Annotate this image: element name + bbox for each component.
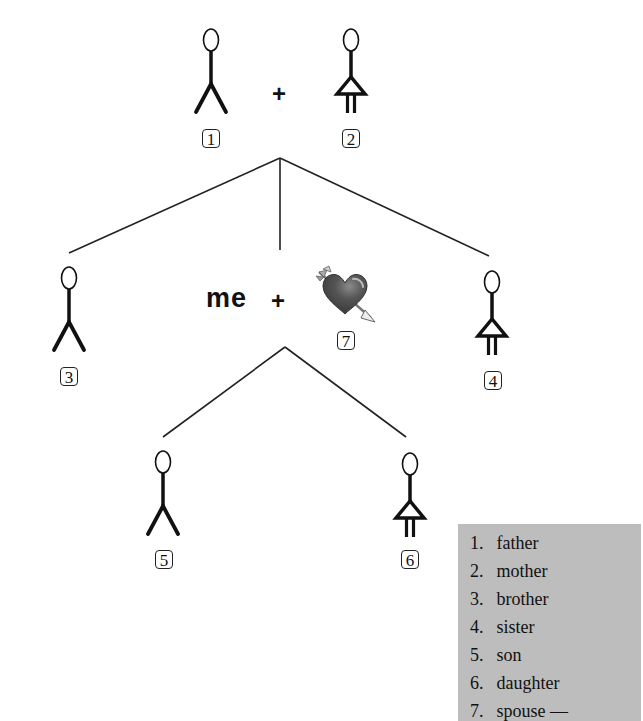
line-couple-to-son — [163, 347, 285, 437]
legend-item: 3. brother — [470, 585, 641, 613]
legend-item: 2. mother — [470, 557, 641, 585]
legend-label: son — [497, 645, 522, 665]
legend-label: spouse — — [497, 701, 569, 721]
legend-number: 4. — [470, 613, 492, 641]
line-parents-to-sister — [280, 158, 489, 256]
mother-figure-icon — [337, 29, 365, 113]
plus-sign-couple: + — [271, 287, 285, 315]
legend-item: 7. spouse — — [470, 697, 641, 721]
badge-brother: 3 — [60, 367, 78, 386]
father-figure-icon — [196, 29, 226, 112]
legend-number: 3. — [470, 585, 492, 613]
line-parents-to-brother — [69, 158, 280, 253]
legend-box: 1. father 2. mother 3. brother 4. sister… — [458, 524, 641, 721]
legend-item: 1. father — [470, 529, 641, 557]
heart-with-arrow-icon — [316, 266, 375, 322]
badge-son: 5 — [155, 550, 173, 569]
legend-label: mother — [497, 561, 548, 581]
badge-spouse: 7 — [337, 331, 355, 350]
legend-label: sister — [497, 617, 535, 637]
legend-label: brother — [497, 589, 549, 609]
badge-father: 1 — [202, 129, 220, 148]
legend-label: father — [497, 533, 539, 553]
brother-figure-icon — [54, 267, 84, 350]
legend-number: 7. — [470, 697, 492, 721]
legend-item: 5. son — [470, 641, 641, 669]
legend-item: 4. sister — [470, 613, 641, 641]
legend-label: daughter — [497, 673, 560, 693]
scan-artifact — [28, 152, 32, 161]
legend-item: 6. daughter — [470, 669, 641, 697]
legend-number: 2. — [470, 557, 492, 585]
badge-daughter: 6 — [401, 550, 419, 569]
sister-figure-icon — [478, 271, 506, 355]
plus-sign-parents: + — [272, 80, 286, 108]
badge-sister: 4 — [484, 371, 502, 390]
line-couple-to-daughter — [285, 347, 406, 437]
badge-mother: 2 — [342, 129, 360, 148]
son-figure-icon — [148, 451, 178, 534]
me-label: me — [206, 283, 247, 314]
legend-number: 1. — [470, 529, 492, 557]
legend-number: 5. — [470, 641, 492, 669]
legend-number: 6. — [470, 669, 492, 697]
daughter-figure-icon — [396, 453, 424, 537]
